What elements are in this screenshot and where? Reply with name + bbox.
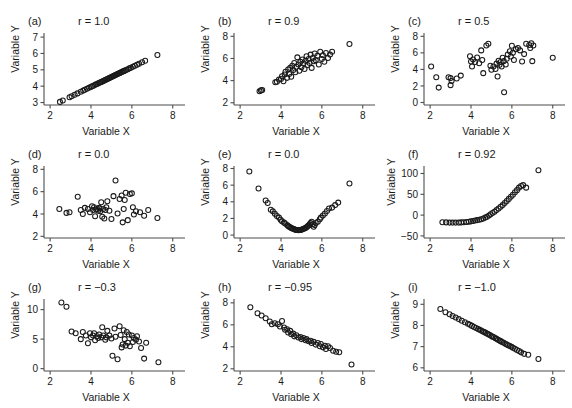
svg-text:4: 4 <box>88 243 94 254</box>
panel-g-plot: 05102468 Variable Y Variable X <box>0 293 190 408</box>
panel-grid: (a) r = 1.0 345672468 Variable Y Variabl… <box>0 9 572 408</box>
ghost-text-row <box>0 0 572 9</box>
svg-text:8: 8 <box>170 376 176 387</box>
panel-h-title: r = −0.95 <box>268 281 312 293</box>
svg-text:8: 8 <box>360 376 366 387</box>
panel-g-letter: (g) <box>28 281 41 293</box>
panel-e-axes: 024682468 <box>190 160 380 260</box>
svg-text:4: 4 <box>468 110 474 121</box>
panel-b: (b) r = 0.9 24682468 Variable Y Variable… <box>190 9 380 142</box>
panel-b-plot: 24682468 Variable Y Variable X <box>190 27 380 142</box>
svg-text:6: 6 <box>509 376 515 387</box>
svg-text:2: 2 <box>427 243 433 254</box>
svg-text:8: 8 <box>170 243 176 254</box>
svg-text:8: 8 <box>550 376 556 387</box>
panel-h-plot: 24682468 Variable Y Variable X <box>190 293 380 408</box>
panel-i-ylabel: Variable Y <box>389 278 401 352</box>
svg-text:6: 6 <box>319 376 325 387</box>
panel-i-plot: 67892468 Variable Y Variable X <box>380 293 570 408</box>
svg-text:6: 6 <box>412 47 418 58</box>
svg-text:8: 8 <box>550 110 556 121</box>
svg-text:4: 4 <box>468 376 474 387</box>
svg-text:2: 2 <box>237 243 243 254</box>
svg-text:2: 2 <box>222 363 228 374</box>
figure-scatterplot-grid: (a) r = 1.0 345672468 Variable Y Variabl… <box>0 0 572 408</box>
svg-text:6: 6 <box>222 53 228 64</box>
panel-g-axes: 05102468 <box>0 293 190 393</box>
svg-text:8: 8 <box>222 31 228 42</box>
panel-b-xlabel: Variable X <box>190 125 380 137</box>
svg-text:2: 2 <box>47 110 53 121</box>
panel-a-title: r = 1.0 <box>78 15 110 27</box>
svg-text:7: 7 <box>412 341 418 352</box>
svg-text:7: 7 <box>32 32 38 43</box>
svg-text:2: 2 <box>412 81 418 92</box>
svg-text:6: 6 <box>222 180 228 191</box>
panel-b-ylabel: Variable Y <box>199 12 211 86</box>
svg-text:4: 4 <box>468 243 474 254</box>
svg-text:4: 4 <box>222 341 228 352</box>
svg-text:2: 2 <box>47 243 53 254</box>
svg-text:6: 6 <box>129 110 135 121</box>
panel-f: (f) r = 0.92 −500501002468 Variable Y Va… <box>380 142 572 275</box>
svg-text:2: 2 <box>427 110 433 121</box>
panel-b-title: r = 0.9 <box>268 15 300 27</box>
svg-text:8: 8 <box>412 31 418 42</box>
svg-text:−50: −50 <box>401 231 418 242</box>
svg-text:4: 4 <box>412 64 418 75</box>
panel-d: (d) r = 0.0 24682468 Variable Y Variable… <box>0 142 190 275</box>
svg-text:4: 4 <box>278 376 284 387</box>
panel-c: (c) r = 0.5 024682468 Variable Y Variabl… <box>380 9 572 142</box>
svg-text:4: 4 <box>32 81 38 92</box>
svg-text:100: 100 <box>401 168 418 179</box>
panel-a-letter: (a) <box>28 15 41 27</box>
svg-text:0: 0 <box>32 363 38 374</box>
svg-text:8: 8 <box>360 243 366 254</box>
svg-text:8: 8 <box>222 163 228 174</box>
panel-i-title: r = −1.0 <box>458 281 496 293</box>
svg-text:3: 3 <box>32 97 38 108</box>
panel-i-xlabel: Variable X <box>380 391 570 403</box>
panel-e-title: r = 0.0 <box>268 148 300 160</box>
svg-text:6: 6 <box>32 48 38 59</box>
panel-d-ylabel: Variable Y <box>9 145 21 219</box>
svg-text:5: 5 <box>32 334 38 345</box>
panel-h-xlabel: Variable X <box>190 391 380 403</box>
panel-a-xlabel: Variable X <box>0 125 190 137</box>
svg-text:6: 6 <box>319 243 325 254</box>
svg-text:8: 8 <box>360 110 366 121</box>
panel-e-ylabel: Variable Y <box>199 145 211 219</box>
panel-d-letter: (d) <box>28 148 41 160</box>
svg-text:6: 6 <box>509 110 515 121</box>
svg-text:9: 9 <box>412 299 418 310</box>
svg-text:8: 8 <box>412 320 418 331</box>
svg-text:8: 8 <box>170 110 176 121</box>
panel-h-axes: 24682468 <box>190 293 380 393</box>
svg-text:0: 0 <box>222 230 228 241</box>
svg-text:4: 4 <box>222 196 228 207</box>
svg-text:6: 6 <box>319 110 325 121</box>
svg-text:8: 8 <box>32 164 38 175</box>
panel-i-letter: (i) <box>408 281 418 293</box>
svg-text:4: 4 <box>278 110 284 121</box>
svg-text:4: 4 <box>88 376 94 387</box>
panel-c-letter: (c) <box>408 15 421 27</box>
panel-g-ylabel: Variable Y <box>9 278 21 352</box>
panel-d-xlabel: Variable X <box>0 258 190 270</box>
panel-a-axes: 345672468 <box>0 27 190 127</box>
svg-text:6: 6 <box>129 376 135 387</box>
svg-text:8: 8 <box>222 297 228 308</box>
svg-text:6: 6 <box>509 243 515 254</box>
panel-a: (a) r = 1.0 345672468 Variable Y Variabl… <box>0 9 190 142</box>
panel-f-letter: (f) <box>408 148 418 160</box>
panel-f-plot: −500501002468 Variable Y Variable X <box>380 160 570 275</box>
svg-text:2: 2 <box>47 376 53 387</box>
panel-d-axes: 24682468 <box>0 160 190 260</box>
panel-e: (e) r = 0.0 024682468 Variable Y Variabl… <box>190 142 380 275</box>
panel-c-axes: 024682468 <box>380 27 570 127</box>
svg-text:50: 50 <box>407 189 419 200</box>
panel-d-title: r = 0.0 <box>78 148 110 160</box>
panel-g-title: r = −0.3 <box>78 281 116 293</box>
svg-text:4: 4 <box>222 75 228 86</box>
svg-text:10: 10 <box>27 304 39 315</box>
